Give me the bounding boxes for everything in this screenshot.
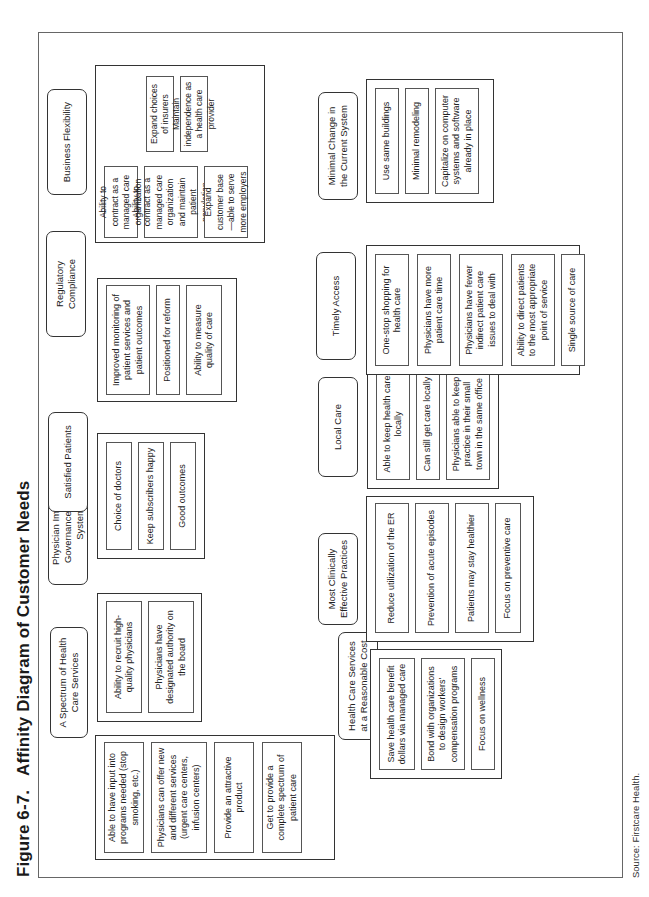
group-header-regulatory-compliance: Regulatory Compliance [46,231,86,337]
list-item: Improved monitoring of patient services … [106,285,150,395]
group-box-minimal-change: Use same buildings Minimal remodeling Ca… [366,79,494,203]
group-header-clinically-effective: Most Clinically Effective Practices [318,533,358,625]
group-box-spectrum: Able to have input into programs needed … [95,735,335,860]
list-item: Ability to contract as a managed care or… [144,166,198,238]
list-item: Prevention of acute episodes [415,503,449,633]
list-item: Capitalize on computer systems and softw… [435,88,479,194]
group-header-satisfied-patients: Satisfied Patients [48,412,88,512]
list-item: Focus on wellness [471,658,495,770]
group-box-satisfied-patients: Choice of doctors Keep subscribers happy… [97,433,205,559]
group-box-reasonable-cost: Save health care benefit dollars via man… [370,649,502,779]
list-item: Patients may stay healthier [455,503,489,633]
group-header-local-care: Local Care [318,377,358,477]
group-box-local-care: Able to keep health care locally Can sti… [367,359,499,489]
rotated-page: Figure 6-7.Affinity Diagram of Customer … [0,0,649,897]
figure-title: Figure 6-7.Affinity Diagram of Customer … [14,481,34,877]
list-item: Physicians able to keep practice in thei… [446,368,490,480]
group-header-timely-access: Timely Access [316,252,356,360]
list-item: Good outcomes [170,442,196,550]
list-item: Physicians can offer new and different s… [151,742,207,853]
source-note: Source: Firstcare Health. [630,773,641,878]
list-item: One-stop shopping for health care [375,254,409,366]
list-item: Able to have input into programs needed … [104,742,144,853]
group-header-minimal-change: Minimal Change in the Current System [318,92,358,200]
group-box-clinically-effective: Reduce utilization of the ER Prevention … [366,496,534,642]
list-item: Provide an attractive product [214,742,254,853]
figure-title-text: Affinity Diagram of Customer Needs [14,481,33,776]
figure-label: Figure 6-7. [14,790,33,877]
list-item: Single source of care [561,254,585,366]
list-item: Can still get care locally [416,368,440,480]
list-item: Reduce utilization of the ER [375,503,409,633]
list-item: Minimal remodeling [405,88,429,194]
list-item: Keep subscribers happy [138,442,164,550]
list-item: Able to keep health care locally [376,368,410,480]
list-item: Use same buildings [375,88,399,194]
list-item: Bond with organizations to design worker… [421,658,465,770]
list-item: Save health care benefit dollars via man… [379,658,415,770]
list-item: Maintain independence as a health care p… [180,76,208,152]
list-item: Physicians have designated authority on … [148,601,194,713]
group-box-business-flexibility: Ability to contract as a managed care or… [95,65,265,243]
group-box-physician-impact: Ability to recruit high-quality physicia… [97,593,202,722]
group-box-regulatory-compliance: Improved monitoring of patient services … [97,278,237,402]
list-item: Physicians have fewer indirect patient c… [459,254,503,366]
list-item: Focus on preventive care [495,503,521,633]
group-box-timely-access: One-stop shopping for health care Physic… [366,245,580,375]
list-item: Positioned for reform [156,285,180,395]
group-header-business-flexibility: Business Flexibility [47,89,87,195]
list-item: Expand choices of insurers [146,76,174,152]
list-item: Physicians have more patient care time [417,254,451,366]
list-item: Get to provide a complete spectrum of pa… [262,742,302,853]
list-item: Choice of doctors [106,442,132,550]
list-item: Expand customer base—able to serve more … [204,166,248,238]
list-item: Ability to measure quality of care [186,285,222,395]
list-item: Ability to recruit high-quality physicia… [106,601,142,713]
list-item: Ability to direct patients to the most a… [511,254,555,366]
group-header-spectrum: A Spectrum of Health Care Services [50,627,88,738]
